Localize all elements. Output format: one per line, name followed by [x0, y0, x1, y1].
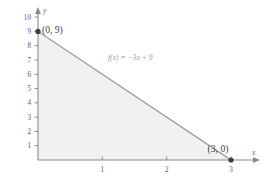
y-axis-arrowhead-icon	[35, 7, 41, 14]
y-tick-label-3: 3	[27, 114, 31, 122]
linear-function-graph-figure: 10 9 8 7 6 5 4 3 2 1 1 2 3 y x (0, 9) (3…	[0, 0, 264, 189]
x-tick-label-1: 1	[101, 166, 105, 174]
y-tick-label-9: 9	[27, 28, 31, 36]
point-marker-x-intercept	[228, 157, 233, 162]
point-marker-y-intercept	[35, 29, 40, 34]
y-axis-label: y	[42, 6, 47, 15]
point-label-x-intercept: (3, 0)	[208, 143, 229, 155]
x-axis-label: x	[251, 148, 256, 157]
y-tick-label-6: 6	[27, 71, 31, 79]
y-tick-label-1: 1	[27, 142, 31, 150]
x-tick-label-2: 2	[165, 166, 169, 174]
function-equation-label: f(x) = −3x + 9	[108, 53, 153, 62]
plot-canvas: 10 9 8 7 6 5 4 3 2 1 1 2 3 y x (0, 9) (3…	[0, 0, 264, 189]
x-tick-label-3: 3	[229, 166, 233, 174]
y-tick-label-7: 7	[27, 57, 31, 65]
y-tick-label-10: 10	[24, 14, 32, 22]
y-tick-label-4: 4	[27, 99, 31, 107]
x-axis-arrowhead-icon	[253, 157, 260, 163]
point-label-y-intercept: (0, 9)	[42, 24, 63, 36]
y-tick-label-5: 5	[27, 85, 31, 93]
y-tick-label-2: 2	[27, 128, 31, 136]
y-tick-label-8: 8	[27, 42, 31, 50]
